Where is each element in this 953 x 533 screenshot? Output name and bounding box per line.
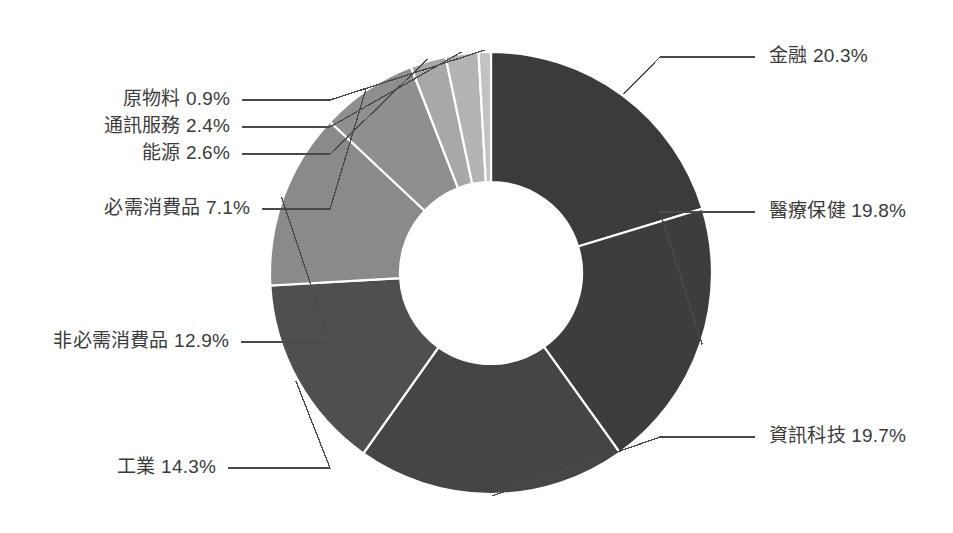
slice-label-finance: 金融 20.3% bbox=[769, 45, 868, 67]
donut-chart-svg bbox=[0, 0, 953, 533]
leader-line bbox=[624, 57, 755, 94]
slice-label-infotech: 資訊科技 19.7% bbox=[769, 425, 906, 447]
donut-chart: 金融 20.3% 醫療保健 19.8% 資訊科技 19.7% 工業 14.3% … bbox=[0, 0, 953, 533]
slice-label-energy: 能源 2.6% bbox=[0, 142, 230, 164]
slice-label-healthcare: 醫療保健 19.8% bbox=[769, 200, 906, 222]
slice-label-industrials: 工業 14.3% bbox=[0, 456, 216, 478]
slice-label-materials: 原物料 0.9% bbox=[0, 88, 230, 110]
slice-label-telecom: 通訊服務 2.4% bbox=[0, 115, 230, 137]
slice-label-consumer-staples: 必需消費品 7.1% bbox=[0, 197, 250, 219]
slice-label-consumer-discretionary: 非必需消費品 12.9% bbox=[0, 330, 229, 352]
